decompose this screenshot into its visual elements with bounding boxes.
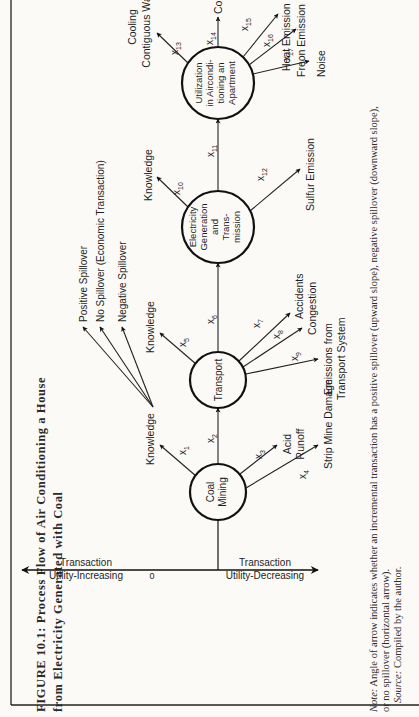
var-x15: x15	[239, 18, 252, 31]
label-congestion: Congestion	[306, 282, 318, 335]
arrow-x1	[160, 445, 196, 476]
svg-text:Transaction: Transaction	[239, 557, 291, 568]
svg-text:Utility-Decreasing: Utility-Decreasing	[226, 570, 304, 581]
svg-text:Apartment: Apartment	[226, 61, 237, 105]
legend-positive-arrow	[83, 327, 153, 407]
node-utilization: Utilization in Aircondi- tioning an Apar…	[182, 47, 254, 119]
label-contiguous-walls: Contiguous Walls	[140, 0, 152, 68]
svg-text:Generation: Generation	[198, 203, 209, 250]
var-x7: x7	[251, 319, 264, 328]
arrow-x13	[157, 33, 188, 63]
label-runoff: Runoff	[294, 429, 306, 460]
label-cooling: Cooling	[126, 9, 138, 45]
label-noise: Noise	[315, 50, 327, 77]
svg-text:Trans-: Trans-	[220, 213, 231, 240]
svg-text:Coal: Coal	[205, 482, 216, 503]
arrow-x9	[246, 359, 318, 374]
label-knowledge-5: Knowledge	[144, 301, 156, 353]
var-x13: x13	[169, 42, 182, 55]
var-x6: x6	[205, 315, 218, 324]
label-knowledge-10: Knowledge	[142, 149, 154, 201]
var-x12: x12	[255, 168, 268, 181]
arrow-x12	[250, 169, 300, 211]
legend-none-label: No Spillover (Economic Transaction)	[95, 160, 106, 322]
svg-text:or no spillover (horizontal ar: or no spillover (horizontal arrow).	[380, 569, 392, 712]
svg-text:Transaction: Transaction	[60, 557, 112, 568]
var-x11: x11	[205, 145, 218, 157]
var-x3: x3	[253, 450, 266, 459]
label-accidents: Accidents	[293, 273, 305, 319]
svg-text:Note: Angle of arrow indicates: Note: Angle of arrow indicates whether a…	[368, 106, 380, 713]
svg-text:tioning an: tioning an	[215, 62, 226, 103]
figure-source: Source: Compiled by the author.	[392, 567, 403, 703]
svg-text:Utility-Increasing: Utility-Increasing	[49, 570, 123, 581]
label-emissions-2: Transport System	[335, 317, 347, 400]
label-freon-emission: Freon Emission	[295, 4, 307, 77]
var-x8: x8	[271, 330, 284, 339]
node-transport: Transport	[190, 352, 246, 408]
label-knowledge-1: Knowledge	[144, 413, 156, 465]
label-acid: Acid	[281, 434, 293, 455]
node-electricity: Electricity Generation and Trans- missio…	[182, 191, 254, 263]
figure-canvas: FIGURE 10.1: Process Flow of Air Conditi…	[0, 0, 419, 717]
var-x1: x1	[177, 446, 190, 455]
var-x9: x9	[289, 352, 302, 361]
axis-bottom-label: Utility-Decreasing Transaction	[226, 557, 304, 581]
svg-text:Electricity: Electricity	[187, 206, 198, 247]
var-x10: x10	[171, 182, 184, 195]
var-x16: x16	[261, 34, 274, 47]
figure-title-line2: from Electricity Generated with Coal	[51, 491, 65, 712]
var-x4: x4	[297, 470, 310, 479]
figure-note: Note: Angle of arrow indicates whether a…	[368, 106, 403, 713]
rotated-figure: FIGURE 10.1: Process Flow of Air Conditi…	[22, 0, 403, 713]
axis-origin-label: 0	[149, 571, 154, 581]
label-cool-air: Cool Air	[212, 0, 224, 14]
figure-title-line1: FIGURE 10.1: Process Flow of Air Conditi…	[34, 377, 48, 712]
svg-text:Mining: Mining	[217, 477, 228, 506]
svg-text:mission: mission	[231, 211, 242, 243]
label-sulfur: Sulfur Emission	[304, 138, 316, 211]
svg-text:and: and	[209, 219, 220, 235]
svg-text:in Aircondi-: in Aircondi-	[204, 60, 215, 107]
var-x2: x2	[205, 434, 218, 443]
node-coal-mining: Coal Mining	[190, 464, 246, 520]
legend-negative-label: Negative Spillover	[117, 241, 128, 322]
svg-text:Transport: Transport	[213, 359, 224, 402]
legend-positive-label: Positive Spillover	[78, 245, 89, 322]
var-x14: x14	[204, 32, 217, 45]
label-heat-emission: Heat Emission	[280, 3, 292, 71]
arrow-x7	[239, 313, 290, 361]
arrow-x5	[160, 333, 196, 364]
label-emissions-1: Emissions from	[322, 323, 334, 395]
svg-text:Utilization: Utilization	[193, 62, 204, 103]
var-x5: x5	[177, 338, 190, 347]
utility-axis: Utility-Increasing Transaction Utility-D…	[22, 520, 318, 581]
